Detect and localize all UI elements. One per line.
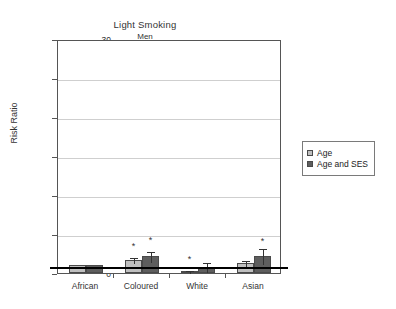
significance-star: * [261,237,265,246]
x-axis-tick-mark [169,274,170,278]
chart-figure: Light Smoking Men Risk Ratio 05101520253… [0,0,396,309]
legend-item-age[interactable]: Age [307,148,368,158]
reference-line [50,267,288,269]
chart-title: Light Smoking [0,19,290,30]
significance-star: * [149,236,153,245]
significance-star: * [132,242,136,251]
error-bar [151,252,152,262]
error-bar-cap [242,261,250,262]
legend-swatch-age-and-ses-icon [307,161,313,167]
gridline [58,80,280,81]
significance-star: * [188,255,192,264]
x-axis-label-coloured: Coloured [124,281,159,291]
gridline [58,236,280,237]
error-bar-cap [259,249,267,250]
legend-swatch-age-icon [307,150,313,156]
gridline [58,158,280,159]
error-bar-cap [186,271,194,272]
error-bar [263,249,264,265]
gridline [58,119,280,120]
error-bar-cap [203,263,211,264]
x-axis-tick-mark [225,274,226,278]
legend-label-age: Age [317,148,332,158]
x-axis-label-white: White [186,281,208,291]
error-bar-cap [147,252,155,253]
legend-item-age-and-ses[interactable]: Age and SES [307,159,368,169]
chart-legend: Age Age and SES [302,141,375,176]
plot-area: **** [57,40,281,274]
x-axis-label-asian: Asian [242,281,263,291]
gridline [58,197,280,198]
legend-label-age-and-ses: Age and SES [317,159,368,169]
x-axis-label-african: African [72,281,98,291]
error-bar-cap [130,258,138,259]
x-axis-tick-mark [113,274,114,278]
y-axis-tick-mark [52,274,57,275]
y-axis-label: Risk Ratio [9,63,19,183]
